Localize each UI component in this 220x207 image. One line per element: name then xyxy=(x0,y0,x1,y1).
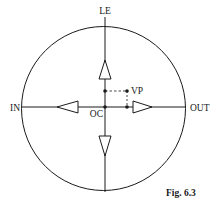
outer-circle xyxy=(22,27,186,191)
arrow-left-icon xyxy=(57,101,78,113)
label-out: OUT xyxy=(190,103,210,113)
vp-projection-horizontal xyxy=(125,105,129,109)
arrow-right-icon xyxy=(133,101,152,113)
vp-projection-vertical xyxy=(103,89,107,93)
figure-caption: Fig. 6.3 xyxy=(166,188,196,198)
label-vp: VP xyxy=(131,86,143,96)
oc-point xyxy=(103,105,107,109)
label-in: IN xyxy=(10,103,20,113)
vp-point xyxy=(125,89,129,93)
arrow-down-icon xyxy=(99,136,111,156)
arrow-up-icon xyxy=(99,60,111,79)
label-oc: OC xyxy=(90,109,103,119)
label-le: LE xyxy=(99,6,111,16)
diagram-canvas: LE IN OUT OC VP Fig. 6.3 xyxy=(0,0,220,207)
